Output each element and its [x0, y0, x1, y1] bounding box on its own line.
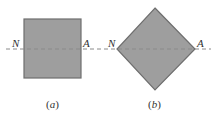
label-a-b: A [196, 37, 204, 49]
caption-b: (b) [148, 98, 161, 111]
label-n-b: N [107, 37, 116, 49]
figure-canvas: N A N A (a) (b) [0, 0, 211, 118]
label-n-a: N [11, 37, 20, 49]
label-a-a: A [82, 37, 90, 49]
caption-a: (a) [46, 98, 59, 111]
